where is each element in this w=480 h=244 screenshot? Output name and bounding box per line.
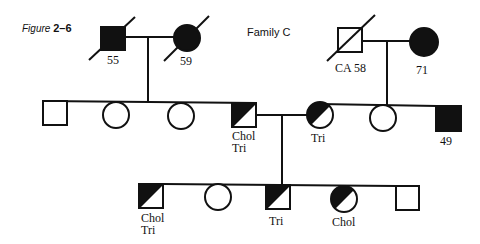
family-title: Family C xyxy=(247,26,290,38)
gen3-female-1 xyxy=(205,184,231,210)
gen3-female-2-half-affected xyxy=(331,186,357,212)
gen1-female-affected xyxy=(410,28,438,56)
gen3-male-3 xyxy=(396,186,419,210)
label-tri: Tri xyxy=(311,131,326,145)
deceased-slash-icon xyxy=(327,15,375,61)
label-71: 71 xyxy=(416,63,428,77)
figure-label: Figure 2–6 xyxy=(22,22,72,34)
gen2-female-1 xyxy=(103,102,129,128)
gen2-female-3 xyxy=(370,105,396,131)
label-59: 59 xyxy=(180,54,192,68)
gen1-left-couple: 55 59 xyxy=(89,16,209,101)
label-chol: Chol xyxy=(332,215,356,229)
pedigree-diagram: Figure 2–6 Family C 55 59 CA 58 71 xyxy=(0,0,480,244)
label-49: 49 xyxy=(440,134,452,148)
gen3: Chol Tri Tri Chol xyxy=(139,184,419,237)
label-tri: Tri xyxy=(269,214,284,228)
gen2: Chol Tri Tri 49 xyxy=(43,101,461,184)
gen2-male-affected xyxy=(436,106,461,131)
label-55: 55 xyxy=(107,53,119,67)
label-tri: Tri xyxy=(232,141,247,155)
label-ca58: CA 58 xyxy=(335,61,366,75)
gen2-female-2 xyxy=(168,103,194,129)
gen2-female-half-affected xyxy=(307,102,333,128)
gen2-male-1 xyxy=(43,101,67,125)
label-tri: Tri xyxy=(141,223,156,237)
gen1-right-couple: CA 58 71 xyxy=(327,15,438,105)
